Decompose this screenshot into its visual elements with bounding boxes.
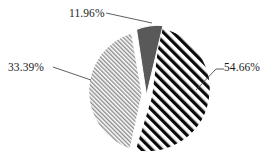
pie-slice-33[interactable] [89,33,142,149]
leader-line-top [106,13,152,23]
pie-label-left: 33.39% [8,62,44,74]
pie-label-top: 11.96% [69,8,105,20]
pie-label-right: 54.66% [224,62,260,74]
pie-chart-figure: 11.96% 33.39% 54.66% [0,0,277,162]
leader-line-left [53,67,91,80]
pie-chart-canvas [0,0,277,162]
